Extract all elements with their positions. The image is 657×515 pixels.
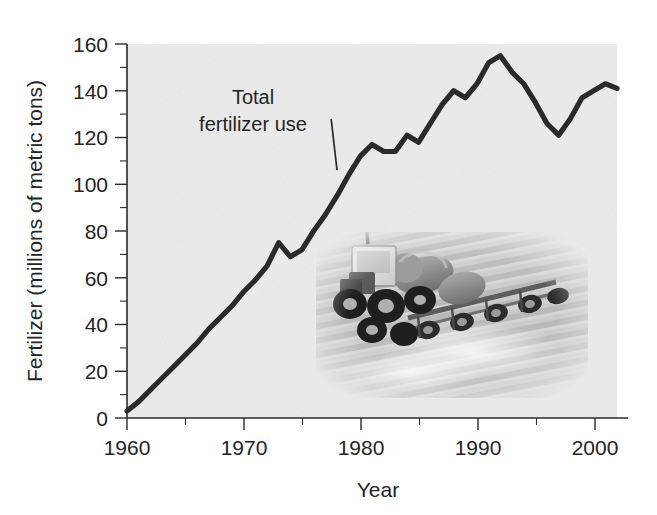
y-tick-label: 80 — [85, 220, 108, 243]
callout-line-2: fertilizer use — [199, 113, 307, 135]
x-axis-title: Year — [357, 478, 399, 501]
y-axis-ticks — [115, 44, 127, 418]
y-tick-label: 60 — [85, 267, 108, 290]
x-axis: 1960 1970 1980 1990 2000 Year — [104, 418, 628, 501]
figure-container: 0 20 40 60 80 100 120 140 160 Fertilizer… — [0, 0, 657, 515]
y-axis-title: Fertilizer (millions of metric tons) — [23, 80, 46, 382]
x-tick-label: 1990 — [455, 436, 502, 459]
y-tick-label: 160 — [73, 33, 108, 56]
x-tick-label: 1980 — [338, 436, 385, 459]
y-axis: 0 20 40 60 80 100 120 140 160 Fertilizer… — [23, 33, 127, 430]
x-axis-tick-labels: 1960 1970 1980 1990 2000 — [104, 436, 619, 459]
fertilizer-application-photo — [316, 224, 588, 398]
y-tick-label: 0 — [96, 407, 108, 430]
callout-line-1: Total — [232, 86, 274, 108]
x-tick-label: 1970 — [221, 436, 268, 459]
y-tick-label: 100 — [73, 173, 108, 196]
y-tick-label: 20 — [85, 360, 108, 383]
fertilizer-use-line-chart: 0 20 40 60 80 100 120 140 160 Fertilizer… — [0, 0, 657, 515]
x-tick-label: 2000 — [572, 436, 619, 459]
x-axis-ticks — [127, 418, 595, 430]
y-tick-label: 120 — [73, 126, 108, 149]
y-axis-tick-labels: 0 20 40 60 80 100 120 140 160 — [73, 33, 108, 430]
y-tick-label: 140 — [73, 80, 108, 103]
y-tick-label: 40 — [85, 313, 108, 336]
x-tick-label: 1960 — [104, 436, 151, 459]
